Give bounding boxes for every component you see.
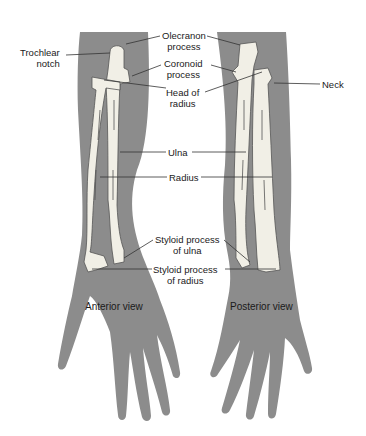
label-styloid-process-radius: Styloid process of radius	[153, 264, 217, 286]
anterior-view-caption: Anterior view	[85, 301, 143, 312]
label-trochlear-notch: Trochlear notch	[20, 47, 60, 69]
label-ulna: Ulna	[168, 147, 188, 158]
label-head-of-radius: Head of radius	[166, 87, 199, 109]
label-radius: Radius	[169, 172, 199, 183]
label-olecranon-process: Olecranon process	[162, 30, 206, 52]
posterior-view-caption: Posterior view	[230, 301, 293, 312]
label-neck: Neck	[322, 79, 344, 90]
label-styloid-process-ulna: Styloid process of ulna	[155, 234, 219, 256]
label-coronoid-process: Coronoid process	[164, 58, 203, 80]
